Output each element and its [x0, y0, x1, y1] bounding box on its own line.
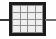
grid-cell [28, 6, 35, 12]
grid-cell [28, 20, 35, 26]
grid-cell [13, 26, 20, 32]
icon-canvas [0, 0, 56, 39]
grid-cell [36, 13, 43, 19]
grid-cell [21, 26, 28, 32]
grid-cell [36, 6, 43, 12]
grid-cell [13, 6, 20, 12]
grid-cell [13, 13, 20, 19]
grid-cell [13, 20, 20, 26]
grid-cell [21, 6, 28, 12]
grid-cell [28, 26, 35, 32]
grid-cell [36, 20, 43, 26]
grid-cell [36, 26, 43, 32]
grid-cell [21, 20, 28, 26]
grid-cell [28, 13, 35, 19]
grid-cell [21, 13, 28, 19]
grid-mesh-icon [9, 2, 46, 36]
lead-right-icon [45, 19, 56, 21]
